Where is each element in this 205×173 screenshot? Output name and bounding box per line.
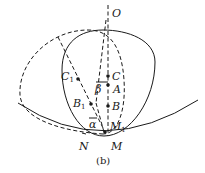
label-a: A bbox=[113, 84, 121, 95]
label-m: M bbox=[111, 141, 122, 152]
n-tick bbox=[82, 133, 86, 134]
point-m1-dot bbox=[103, 130, 107, 134]
label-m1: M1 bbox=[110, 121, 126, 134]
label-beta: β bbox=[95, 84, 101, 95]
label-alpha: α bbox=[89, 119, 96, 130]
label-b: B bbox=[112, 101, 120, 112]
figure-caption: (b) bbox=[96, 156, 110, 166]
point-a-dot bbox=[106, 83, 110, 87]
point-b1-dot bbox=[89, 102, 93, 106]
label-n: N bbox=[79, 141, 89, 152]
label-c1: C1 bbox=[61, 71, 74, 84]
diagram-canvas bbox=[0, 0, 205, 173]
point-b-dot bbox=[106, 104, 110, 108]
point-c1-dot bbox=[76, 77, 80, 81]
label-c: C bbox=[112, 71, 120, 82]
label-o: O bbox=[112, 8, 121, 19]
point-c-dot bbox=[106, 74, 110, 78]
label-b1: B1 bbox=[73, 98, 86, 111]
